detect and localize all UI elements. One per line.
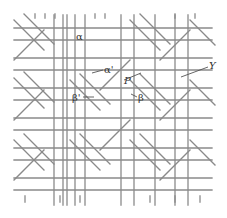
label-alpha-prime: α' bbox=[104, 64, 114, 75]
y-arrow bbox=[181, 67, 208, 77]
label-y: Y bbox=[209, 60, 217, 71]
lattice-lines bbox=[14, 14, 215, 205]
woven-pattern-diagram: α α' β' β P Y bbox=[0, 0, 227, 218]
annotation-arrows bbox=[83, 67, 208, 97]
label-p: P bbox=[123, 75, 131, 86]
label-alpha: α bbox=[76, 31, 83, 42]
label-beta-prime: β' bbox=[72, 92, 81, 103]
label-beta: β bbox=[138, 92, 144, 103]
